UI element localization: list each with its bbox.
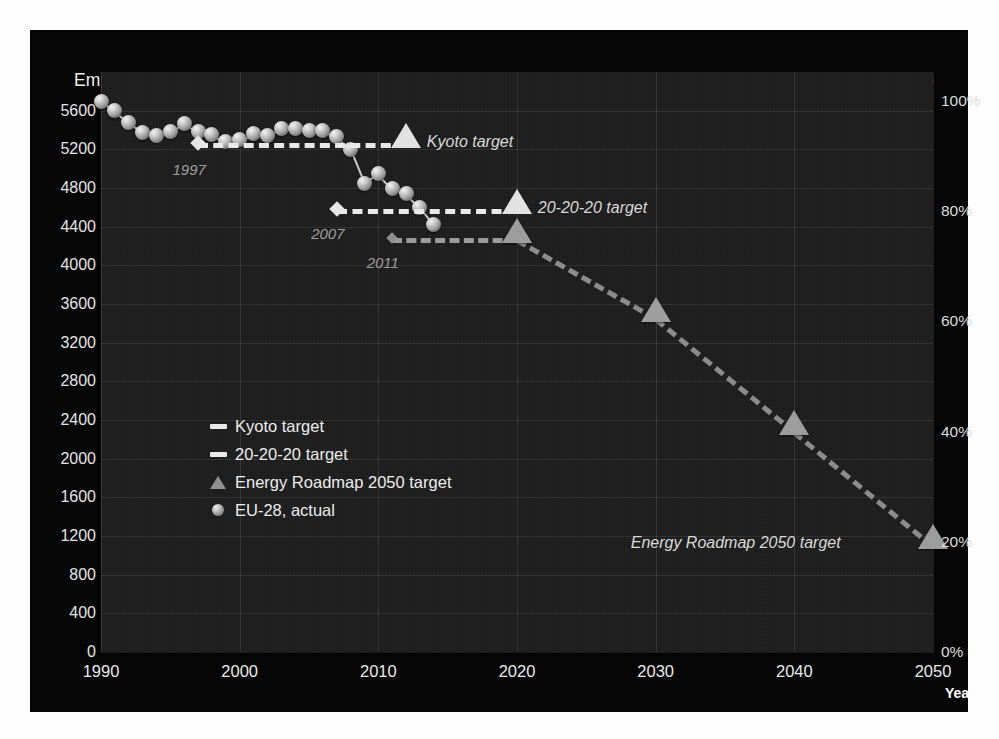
gridline-vertical (794, 72, 795, 652)
secondary-y-axis-tick-label: 60% (941, 313, 999, 328)
x-axis-tick-label: 2050 (893, 662, 973, 681)
y-axis-tick-label: 4400 (34, 219, 96, 235)
legend-label: 20-20-20 target (235, 445, 348, 464)
data-point-eu28-actual (246, 126, 261, 141)
x-axis: 1990200020102020203020402050 (101, 662, 933, 692)
data-point-eu28-actual (149, 128, 164, 143)
legend-key (201, 504, 235, 516)
chart-annotation: 20-20-20 target (538, 199, 647, 217)
kyoto-target-marker (391, 123, 421, 148)
y-axis-right-percent: 100%80%60%40%20%0% (941, 72, 999, 652)
legend-circle-icon (212, 504, 224, 516)
y-axis-tick-label: 2800 (34, 373, 96, 389)
series-line-segment (516, 239, 657, 322)
chart-frame: Emission (million tonnes CO2 equivalent)… (30, 30, 968, 712)
legend-key (201, 452, 235, 457)
twenty-target-marker (502, 189, 532, 214)
legend-item[interactable]: Kyoto target (201, 412, 451, 440)
data-point-eu28-actual (177, 116, 192, 131)
gridline-vertical (933, 72, 934, 652)
chart-annotation: Energy Roadmap 2050 target (631, 534, 841, 552)
series-line-segment (654, 317, 796, 434)
y-axis-tick-label: 4000 (34, 257, 96, 273)
chart-annotation: 2007 (311, 225, 344, 242)
x-axis-tick-label: 1990 (61, 662, 141, 681)
x-axis-title: Year (945, 685, 975, 701)
chart-annotation: 1997 (173, 161, 206, 178)
secondary-y-axis-tick-label: 20% (941, 534, 999, 549)
roadmap-target-marker (779, 410, 809, 435)
data-point-eu28-actual (302, 123, 317, 138)
gridline-vertical (517, 72, 518, 652)
legend-label: Energy Roadmap 2050 target (235, 473, 451, 492)
roadmap-target-marker (641, 297, 671, 322)
chart-legend: Kyoto target20-20-20 targetEnergy Roadma… (201, 412, 451, 524)
x-axis-tick-label: 2040 (754, 662, 834, 681)
x-axis-tick-label: 2020 (477, 662, 557, 681)
y-axis-tick-label: 2400 (34, 412, 96, 428)
y-axis-tick-label: 0 (34, 644, 96, 660)
legend-triangle-icon (210, 476, 226, 489)
secondary-y-axis-tick-label: 0% (941, 644, 999, 659)
series-line-segment (793, 430, 935, 548)
legend-dash-icon (210, 424, 227, 429)
gridline-vertical (101, 72, 102, 652)
gridline-vertical (378, 72, 379, 652)
data-point-eu28-actual (288, 121, 303, 136)
gridline-horizontal (101, 652, 933, 653)
y-axis-tick-label: 400 (34, 605, 96, 621)
legend-dash-icon (210, 452, 227, 457)
legend-label: Kyoto target (235, 417, 324, 436)
roadmap-base-line (392, 238, 517, 243)
data-point-eu28-actual (399, 186, 414, 201)
data-point-eu28-actual (121, 115, 136, 130)
legend-item[interactable]: Energy Roadmap 2050 target (201, 468, 451, 496)
legend-item[interactable]: EU-28, actual (201, 496, 451, 524)
x-axis-tick-label: 2000 (200, 662, 280, 681)
y-axis-tick-label: 4800 (34, 180, 96, 196)
twenty-base-marker (329, 201, 345, 217)
data-point-eu28-actual (163, 124, 178, 139)
legend-label: EU-28, actual (235, 501, 335, 520)
x-axis-tick-label: 2030 (616, 662, 696, 681)
plot-area: Kyoto target20-20-20 targetEnergy Roadma… (101, 72, 933, 652)
chart-annotation: Kyoto target (427, 133, 513, 151)
roadmap-target-marker (502, 218, 532, 243)
data-point-eu28-actual (357, 176, 372, 191)
data-point-eu28-actual (315, 123, 330, 138)
legend-key (201, 424, 235, 429)
kyoto-target-line (198, 143, 406, 148)
y-axis-tick-label: 3600 (34, 296, 96, 312)
y-axis-tick-label: 1200 (34, 528, 96, 544)
y-axis-tick-label: 800 (34, 567, 96, 583)
twenty-target-line (337, 209, 517, 214)
data-point-eu28-actual (260, 128, 275, 143)
data-point-eu28-actual (135, 125, 150, 140)
data-point-eu28-actual (371, 166, 386, 181)
data-point-eu28-actual (385, 181, 400, 196)
y-axis-tick-label: 3200 (34, 335, 96, 351)
secondary-y-axis-tick-label: 100% (941, 93, 999, 108)
data-point-eu28-actual (274, 121, 289, 136)
y-axis-tick-label: 5200 (34, 141, 96, 157)
chart-annotation: 2011 (367, 254, 399, 271)
y-axis-left: 5600520048004400400036003200280024002000… (30, 72, 96, 652)
secondary-y-axis-tick-label: 40% (941, 424, 999, 439)
gridline-vertical (656, 72, 657, 652)
legend-key (201, 476, 235, 489)
data-point-eu28-actual (426, 217, 441, 232)
y-axis-tick-label: 2000 (34, 451, 96, 467)
secondary-y-axis-tick-label: 80% (941, 203, 999, 218)
x-axis-tick-label: 2010 (338, 662, 418, 681)
legend-item[interactable]: 20-20-20 target (201, 440, 451, 468)
chart-screenshot: Emission (million tonnes CO2 equivalent)… (0, 0, 999, 739)
y-axis-tick-label: 5600 (34, 103, 96, 119)
y-axis-tick-label: 1600 (34, 489, 96, 505)
gridline-vertical (240, 72, 241, 652)
